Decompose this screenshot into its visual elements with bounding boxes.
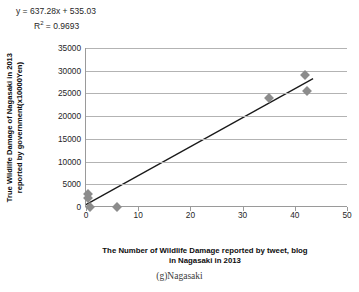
y-axis-tick-label: 10000 [58,157,81,167]
r-squared-number: = 0.9693 [43,20,79,30]
x-axis-title: The Number of Wildlife Damage reported b… [60,246,350,267]
y-axis-title: True Wildlife Damage of Nagasaki in 2013… [5,40,24,216]
x-axis-tick-label: 0 [84,210,89,220]
x-axis-tick-label: 40 [290,210,299,220]
y-axis-tick-label: 15000 [58,134,81,144]
y-axis-tick-label: 30000 [58,66,81,76]
gridline [86,162,347,163]
x-axis-tick-label: 20 [186,210,195,220]
x-axis-title-line1: The Number of Wildlife Damage reported b… [60,246,350,256]
figure-caption: (g)Nagasaki [0,271,359,281]
gridline [86,139,347,140]
y-axis-tick-label: 0 [76,202,81,212]
regression-annotation: y = 637.28x + 535.03 R2 = 0.9693 [16,6,96,32]
plot-area: 0500010000150002000025000300003500001020… [86,48,347,207]
y-axis-title-line2: reported by government(x10000Yen) [15,40,25,216]
x-axis-tick-label: 10 [134,210,143,220]
gridline [86,48,347,49]
gridline [86,184,347,185]
r-squared-value: R2 = 0.9693 [16,18,96,32]
y-axis-tick-label: 5000 [63,179,81,189]
x-axis-tick-label: 30 [238,210,247,220]
gridline [86,71,347,72]
y-axis-tick-label: 35000 [58,43,81,53]
trendline [86,48,347,207]
regression-equation: y = 637.28x + 535.03 [16,6,96,18]
y-axis-tick-label: 20000 [58,111,81,121]
gridline [86,116,347,117]
x-axis-tick-label: 50 [342,210,351,220]
y-axis-tick-label: 25000 [58,88,81,98]
x-axis-title-line2: in Nagasaki in 2013 [60,256,350,266]
y-axis-title-line1: True Wildlife Damage of Nagasaki in 2013 [5,40,15,216]
